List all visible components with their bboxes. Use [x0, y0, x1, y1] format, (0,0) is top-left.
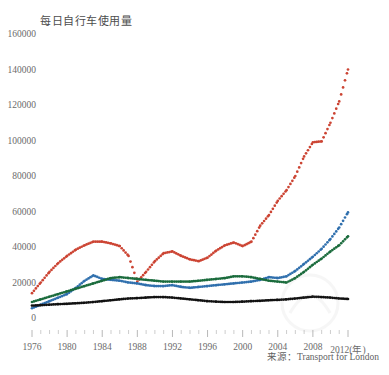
- series-black-series: [31, 295, 350, 307]
- series-green-series: [31, 235, 350, 303]
- chart-plot-area: [0, 0, 389, 375]
- x-axis-tick-label: 2004: [268, 342, 287, 352]
- series-red-series: [31, 68, 350, 294]
- chart-container: 每日自行车使用量 0200004000060000800001000001200…: [0, 0, 389, 375]
- x-axis-tick-label: 2000: [233, 342, 252, 352]
- x-axis-tick-label: 2012(年): [330, 342, 365, 356]
- x-axis-tick-label: 1984: [93, 342, 112, 352]
- x-axis-tick-label: 1996: [198, 342, 217, 352]
- x-axis-tick-label: 1976: [23, 342, 42, 352]
- x-axis-tick-label: 1988: [128, 342, 147, 352]
- x-axis-tick-label: 2008: [303, 342, 322, 352]
- x-axis-tick-label: 1980: [58, 342, 77, 352]
- x-axis-tick-label: 1992: [163, 342, 182, 352]
